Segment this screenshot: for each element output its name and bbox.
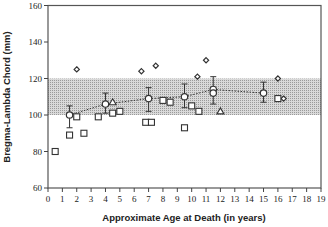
x-tick-label: 1	[60, 194, 65, 204]
x-tick-label: 3	[89, 194, 94, 204]
square-marker	[160, 97, 166, 103]
square-marker	[167, 99, 173, 105]
x-tick-label: 7	[146, 194, 151, 204]
circle-marker	[66, 112, 72, 118]
x-tick-label: 12	[216, 194, 225, 204]
y-tick-label: 140	[29, 37, 43, 47]
square-marker	[52, 149, 58, 155]
y-tick-label: 80	[33, 147, 43, 157]
square-marker	[110, 110, 116, 116]
x-tick-label: 15	[259, 194, 269, 204]
x-tick-label: 16	[273, 194, 283, 204]
x-tick-label: 10	[187, 194, 197, 204]
square-marker	[148, 119, 154, 125]
x-tick-label: 19	[317, 194, 327, 204]
x-tick-label: 6	[132, 194, 137, 204]
x-tick-label: 14	[245, 194, 255, 204]
x-tick-label: 8	[161, 194, 166, 204]
y-tick-label: 100	[29, 110, 43, 120]
square-marker	[196, 108, 202, 114]
x-tick-label: 5	[118, 194, 123, 204]
diamond-marker	[153, 63, 158, 68]
x-tick-label: 11	[202, 194, 211, 204]
x-tick-label: 13	[230, 194, 240, 204]
diamond-marker	[203, 58, 208, 63]
y-tick-label: 60	[33, 183, 43, 193]
y-tick-label: 160	[29, 1, 43, 11]
diamond-marker	[74, 67, 79, 72]
x-tick-label: 17	[288, 194, 298, 204]
circle-marker	[145, 95, 151, 101]
x-tick-label: 0	[46, 194, 51, 204]
scatter-chart: 6080100120140160 01234567891011121314151…	[0, 0, 328, 227]
square-marker	[74, 114, 80, 120]
x-tick-label: 18	[302, 194, 312, 204]
x-tick-label: 9	[175, 194, 180, 204]
x-tick-label: 4	[103, 194, 108, 204]
x-tick-label: 2	[74, 194, 79, 204]
circle-marker	[102, 101, 108, 107]
square-marker	[117, 108, 123, 114]
diamond-marker	[139, 69, 144, 74]
square-marker	[189, 103, 195, 109]
x-axis-ticks: 012345678910111213141516171819	[46, 188, 326, 204]
square-marker	[182, 125, 188, 131]
circle-marker	[181, 94, 187, 100]
square-marker	[95, 114, 101, 120]
square-marker	[81, 130, 87, 136]
y-tick-label: 120	[29, 74, 43, 84]
y-axis-title: Bregma-Lambda Chord (mm)	[1, 31, 12, 162]
circle-marker	[260, 90, 266, 96]
circle-marker	[210, 90, 216, 96]
square-marker	[143, 119, 149, 125]
square-marker	[275, 96, 281, 102]
diamond-marker	[195, 74, 200, 79]
square-marker	[67, 132, 73, 138]
y-axis-ticks: 6080100120140160	[29, 1, 49, 194]
x-axis-title: Approximate Age at Death (in years)	[102, 212, 265, 223]
